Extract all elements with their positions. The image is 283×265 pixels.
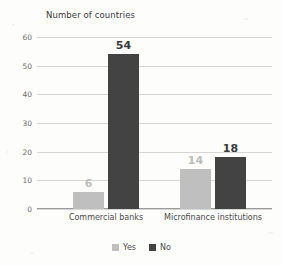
x-axis-category-label: Microfinance institutions (164, 213, 262, 222)
legend-item-no[interactable]: No (149, 243, 171, 252)
bar-value-label: 6 (85, 177, 93, 190)
chart-legend: Yes No (0, 243, 283, 252)
legend-label-yes: Yes (123, 243, 136, 252)
scan-artifact (244, 18, 248, 20)
bar-value-label: 18 (223, 142, 238, 155)
legend-swatch-no-icon (149, 244, 156, 251)
y-axis-tick-label: 50 (22, 61, 32, 70)
y-axis-tick-label: 60 (22, 33, 32, 42)
chart-title: Number of countries (46, 10, 135, 20)
plot-area: 0102030405060 6541418 (37, 37, 272, 209)
y-axis-tick-label: 20 (22, 147, 32, 156)
gridline (37, 123, 272, 124)
bar-value-label: 14 (188, 154, 203, 167)
gridline (37, 209, 272, 210)
bar-yes[interactable] (180, 169, 211, 209)
legend-label-no: No (160, 243, 171, 252)
bar-value-label: 54 (116, 39, 131, 52)
bar-no[interactable] (215, 157, 246, 209)
y-axis-tick-label: 10 (22, 176, 32, 185)
legend-item-yes[interactable]: Yes (112, 243, 136, 252)
gridline (37, 66, 272, 67)
scan-artifact (268, 232, 273, 234)
y-axis-tick-label: 0 (27, 205, 32, 214)
y-axis-tick-label: 40 (22, 90, 32, 99)
y-axis-tick-label: 30 (22, 119, 32, 128)
gridline (37, 37, 272, 38)
scan-artifact (12, 24, 15, 26)
bar-yes[interactable] (73, 192, 104, 209)
x-axis-category-label: Commercial banks (69, 213, 143, 222)
scan-artifact (30, 252, 34, 254)
bar-chart: Number of countries 0102030405060 654141… (0, 0, 283, 265)
scan-artifact (6, 150, 8, 153)
bar-no[interactable] (108, 54, 139, 209)
legend-swatch-yes-icon (112, 244, 119, 251)
gridline (37, 94, 272, 95)
